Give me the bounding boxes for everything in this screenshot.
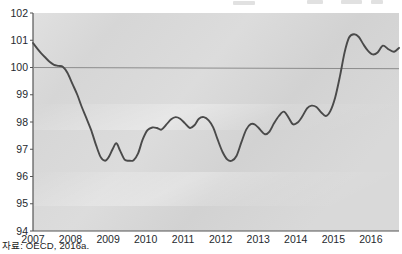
scan-streak-lower	[33, 172, 399, 206]
y-tick-label: 96	[16, 170, 28, 182]
x-tick-label: 2015	[322, 233, 346, 245]
page-bleed-fragments	[215, 0, 400, 7]
y-axis-tick-labels: 949596979899100101102	[10, 7, 28, 237]
x-tick-label: 2012	[209, 233, 233, 245]
y-tick-label: 100	[10, 61, 28, 73]
x-tick-label: 2016	[359, 233, 383, 245]
bleed-fragment-4	[371, 0, 383, 4]
y-tick-label: 99	[16, 88, 28, 100]
y-tick-label: 97	[16, 143, 28, 155]
bleed-fragment-1	[233, 1, 255, 5]
y-tick-label: 101	[10, 34, 28, 46]
y-tick-label: 102	[10, 7, 28, 19]
bleed-fragment-3	[341, 0, 362, 4]
y-tick-label: 98	[16, 116, 28, 128]
x-tick-label: 2014	[284, 233, 308, 245]
y-tick-label: 95	[16, 197, 28, 209]
figure-container: 949596979899100101102 200720082009201020…	[0, 0, 402, 254]
bleed-fragment-2	[307, 0, 323, 4]
line-chart: 949596979899100101102 200720082009201020…	[0, 0, 402, 254]
scan-streak-upper	[33, 104, 399, 130]
x-tick-label: 2013	[247, 233, 271, 245]
x-tick-label: 2010	[134, 233, 158, 245]
source-caption: 자료: OECD, 2016a.	[2, 238, 89, 252]
x-tick-label: 2011	[172, 233, 195, 245]
x-tick-label: 2009	[96, 233, 120, 245]
